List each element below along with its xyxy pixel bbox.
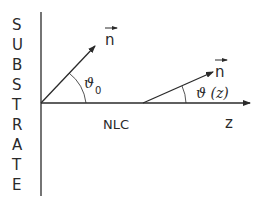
substrate-label: S U B S T R A T E bbox=[11, 16, 23, 194]
substrate-letter: S bbox=[12, 16, 22, 34]
substrate-letter: B bbox=[12, 56, 22, 74]
angle-arc-theta-z bbox=[182, 86, 186, 103]
director-label-1: n bbox=[105, 31, 115, 49]
substrate-letter: U bbox=[12, 36, 23, 54]
substrate-letter: S bbox=[12, 76, 22, 94]
medium-label-nlc: NLC bbox=[103, 117, 129, 132]
director-label-2: n bbox=[215, 63, 225, 81]
substrate-letter: E bbox=[12, 176, 21, 194]
substrate-letter: R bbox=[12, 116, 22, 134]
axis-label-z: z bbox=[225, 114, 233, 132]
angle-label-theta0: ϑ bbox=[84, 75, 94, 91]
substrate-letter: T bbox=[11, 96, 22, 114]
substrate-letter: A bbox=[12, 136, 23, 154]
director-diagram: S U B S T R A T E n n ϑ 0 ϑ (z) NLC z bbox=[0, 0, 264, 205]
diagram-canvas: S U B S T R A T E n n ϑ 0 ϑ (z) NLC z bbox=[0, 0, 264, 205]
substrate-letter: T bbox=[11, 156, 22, 174]
angle-label-theta0-subscript: 0 bbox=[95, 85, 101, 96]
angle-label-theta-z: ϑ (z) bbox=[196, 85, 229, 101]
